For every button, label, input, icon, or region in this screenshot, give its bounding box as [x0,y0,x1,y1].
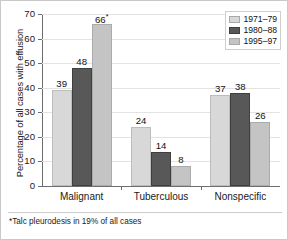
y-tick-label: 20 [24,132,35,142]
legend-swatch-icon [229,38,240,45]
chart-footnote: *Talc pleurodesis in 19% of all cases [9,217,141,226]
chart-figure: Percentage of all cases with effusion 01… [0,0,288,240]
chart-legend: 1971–79 1980–88 1995–97 [225,11,281,50]
x-axis-line [42,186,280,187]
legend-label: 1980–88 [244,26,277,35]
y-tick-label: 10 [24,157,35,167]
legend-item: 1971–79 [229,14,277,25]
bar [230,93,250,186]
y-tick [38,88,42,89]
category-separator [201,186,202,190]
legend-item: 1995–97 [229,36,277,47]
bar [72,68,92,186]
y-tick [38,63,42,64]
bar [171,166,191,186]
bar-value-label: 66* [89,13,115,25]
legend-label: 1971–79 [244,15,277,24]
x-axis-label: Tuberculous [134,191,189,202]
x-axis-label: Malignant [60,191,103,202]
y-tick [38,112,42,113]
legend-swatch-icon [229,27,240,34]
bar-value-label: 26 [247,111,273,121]
y-tick-label: 60 [24,34,35,44]
y-axis-line [42,14,43,186]
bar [210,95,230,186]
bar-value-label: 14 [148,141,174,151]
bar [92,24,112,186]
y-tick-label: 0 [30,181,35,191]
bar-value-label: 38 [227,82,253,92]
category-separator [121,186,122,190]
legend-swatch-icon [229,16,240,23]
y-tick-label: 40 [24,83,35,93]
x-axis-label: Nonspecific [214,191,266,202]
y-tick [38,14,42,15]
bar [52,90,72,186]
legend-label: 1995–97 [244,37,277,46]
y-tick-label: 70 [24,9,35,19]
y-tick-label: 30 [24,107,35,117]
y-tick [38,39,42,40]
y-tick [38,186,42,187]
x-axis-labels: MalignantTuberculousNonspecific [42,191,280,205]
y-tick [38,161,42,162]
bar [250,122,270,186]
bar-value-label: 24 [128,116,154,126]
legend-item: 1980–88 [229,25,277,36]
bar-value-label: 8 [168,155,194,165]
y-tick-label: 50 [24,58,35,68]
bar [131,127,151,186]
footnote-divider [8,212,282,213]
y-tick [38,137,42,138]
